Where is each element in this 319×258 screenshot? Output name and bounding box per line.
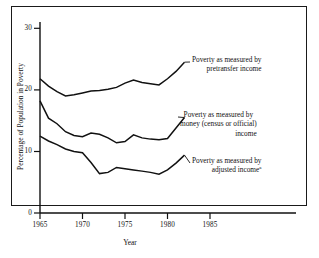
series-line-pretransfer-income [40,62,185,96]
x-tick-label-1965: 1965 [26,221,54,229]
annotation-money-income: Poverty as measured by money (census or … [180,110,257,138]
x-tick-label-1980: 1980 [154,221,182,229]
annotation-adjusted-line1: Poverty as measured by [192,156,262,165]
annotation-pretransfer-line2: pretransfer income [192,64,262,73]
x-tick-label-1970: 1970 [69,221,97,229]
poverty-line-chart-figure: 30 20 10 0 1965 1970 1975 1980 1985 Perc… [0,0,319,258]
annotation-money-line2: money (census or official) [180,119,257,128]
annotation-pretransfer-income: Poverty as measured by pretransfer incom… [192,55,262,74]
annotation-adjusted-line2-text: adjusted income [212,165,260,174]
x-tick-label-1985: 1985 [196,221,224,229]
annotation-adjusted-line2: adjusted incomea [192,165,262,174]
series-line-money-income [40,101,185,143]
annotation-money-line3: income [180,129,257,138]
leader-line-adjusted [185,155,191,163]
footnote-marker: a [259,165,261,170]
x-axis-title: Year [80,238,180,247]
annotation-adjusted-income: Poverty as measured by adjusted incomea [192,156,262,175]
y-axis-title: Percentage of Population in Poverty [16,42,25,192]
x-tick-label-1975: 1975 [111,221,139,229]
annotation-money-line1: Poverty as measured by [180,110,257,119]
annotation-pretransfer-line1: Poverty as measured by [192,55,262,64]
y-tick-label-30: 30 [12,24,32,32]
series-line-adjusted-income [40,136,185,174]
chart-plot-area [0,0,319,258]
y-tick-label-0: 0 [12,209,32,217]
